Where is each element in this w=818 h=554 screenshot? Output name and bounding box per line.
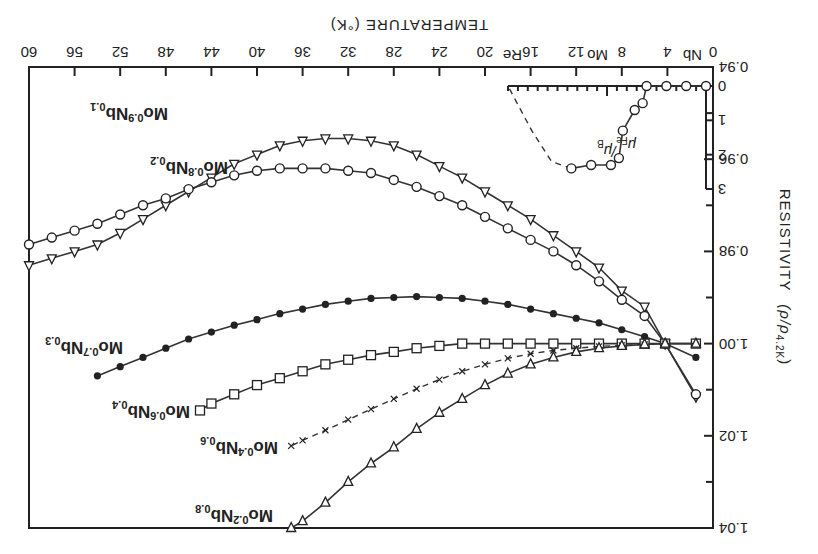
x-tick-label: 0 [709, 44, 717, 61]
inset-x-label-mo: Mo [587, 47, 608, 64]
x-tick-label: 36 [294, 44, 311, 61]
series-Mo07Nb03 [94, 293, 700, 379]
resistivity-chart: 048121620242832364044485256600.940.960.9… [0, 0, 818, 554]
y-tick-label: 1.04 [719, 520, 748, 537]
rotated-figure: 048121620242832364044485256600.940.960.9… [0, 0, 818, 554]
inset-point [587, 160, 596, 169]
inset-dashed-curve [508, 86, 571, 168]
inset-y-tick-label: 2 [718, 147, 726, 164]
series-label-mo06nb04: Mo0.6Nb0.4 [111, 399, 190, 422]
x-tick-label: 24 [431, 44, 448, 61]
svg-text:RESISTIVITY (ρ/ρ4.2K): RESISTIVITY (ρ/ρ4.2K) [774, 189, 794, 366]
x-tick-label: 28 [385, 44, 402, 61]
inset-point [702, 82, 711, 91]
svg-text:Mo0.2Nb0.8: Mo0.2Nb0.8 [195, 503, 273, 526]
inset-solid-curve [571, 86, 706, 168]
x-tick-label: 16 [522, 44, 539, 61]
x-tick-label: 32 [340, 44, 357, 61]
inset-point [618, 126, 627, 135]
svg-text:Mo0.9Nb0.1: Mo0.9Nb0.1 [90, 101, 168, 124]
inset-point [630, 106, 639, 115]
x-tick-label: 48 [157, 44, 174, 61]
x-tick-label: 12 [568, 44, 585, 61]
x-tick-label: 44 [203, 44, 220, 61]
curves [25, 135, 701, 532]
series-Mo02Nb08 [287, 338, 701, 531]
x-tick-label: 40 [249, 44, 266, 61]
inset-y-tick-label: 0 [718, 78, 726, 95]
x-tick-label: 4 [663, 44, 671, 61]
x-axis-title: TEMPERATURE (°K) [330, 17, 488, 34]
svg-text:Mo0.7Nb0.3: Mo0.7Nb0.3 [45, 335, 123, 358]
x-tick-label: 52 [112, 44, 129, 61]
inset-x-label-re: Re [503, 47, 522, 64]
x-tick-label: 60 [21, 44, 38, 61]
y-tick-label: 1.00 [719, 336, 748, 353]
series-label-mo04nb06: Mo0.4Nb0.6 [200, 435, 278, 458]
series-label-mo08nb02: Mo0.8Nb0.2 [150, 155, 228, 178]
y-axis-title: RESISTIVITY (ρ/ρ4.2K) [774, 189, 794, 366]
inset-y-tick-label: 3 [718, 181, 726, 198]
series-Mo09Nb01 [25, 135, 701, 402]
inset-point [638, 99, 647, 108]
series-label-mo02nb08: Mo0.2Nb0.8 [195, 503, 273, 526]
svg-text:Mo0.8Nb0.2: Mo0.8Nb0.2 [150, 155, 228, 178]
x-tick-label: 8 [618, 44, 626, 61]
y-tick-label: 1.02 [719, 428, 748, 445]
y-tick-label: 0.94 [719, 59, 748, 76]
y-tick-label: 0.98 [719, 243, 748, 260]
x-tick-label: 56 [66, 44, 83, 61]
inset-point [642, 82, 651, 91]
series-label-mo09nb01: Mo0.9Nb0.1 [90, 101, 168, 124]
series-label-mo07nb03: Mo0.7Nb0.3 [45, 335, 123, 358]
inset-point [567, 164, 576, 173]
inset-point [606, 160, 615, 169]
inset-point [682, 82, 691, 91]
x-tick-label: 20 [477, 44, 494, 61]
inset-y-tick-label: 1 [718, 112, 726, 129]
svg-text:Mo0.6Nb0.4: Mo0.6Nb0.4 [111, 399, 190, 422]
svg-text:Mo0.4Nb0.6: Mo0.4Nb0.6 [200, 435, 278, 458]
inset-x-label-nb: Nb [683, 47, 702, 64]
inset-point [662, 82, 671, 91]
